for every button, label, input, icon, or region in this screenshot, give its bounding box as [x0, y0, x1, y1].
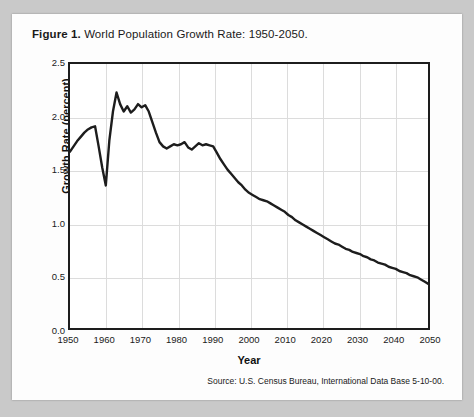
x-tick-label: 1950 [57, 334, 78, 345]
x-axis-label: Year [68, 354, 430, 366]
x-tick-label: 2010 [275, 334, 296, 345]
x-tick-label: 2020 [311, 334, 332, 345]
plot-area [68, 62, 430, 330]
y-tick-label: 0.5 [52, 271, 65, 282]
x-tick-label: 2040 [383, 334, 404, 345]
x-tick-label: 1980 [166, 334, 187, 345]
page-background: Figure 1. World Population Growth Rate: … [0, 0, 474, 417]
y-tick-label: 1.5 [52, 164, 65, 175]
y-tick-label: 1.0 [52, 217, 65, 228]
x-tick-label: 1970 [130, 334, 151, 345]
figure-caption: World Population Growth Rate: 1950-2050. [84, 28, 308, 40]
x-tick-label: 1960 [94, 334, 115, 345]
source-note: Source: U.S. Census Bureau, Internationa… [207, 376, 444, 386]
y-tick-label: 2.5 [52, 57, 65, 68]
x-tick-label: 2000 [238, 334, 259, 345]
x-axis-ticks: 1950196019701980199020002010202020302040… [68, 334, 430, 350]
growth-rate-line [70, 93, 428, 284]
series-layer [70, 64, 428, 328]
y-axis-ticks: 0.00.51.01.52.02.5 [32, 62, 65, 330]
y-tick-label: 2.0 [52, 110, 65, 121]
x-tick-label: 1990 [202, 334, 223, 345]
x-tick-label: 2030 [347, 334, 368, 345]
x-tick-label: 2050 [419, 334, 440, 345]
figure-title: Figure 1. World Population Growth Rate: … [32, 28, 308, 40]
figure-card: Figure 1. World Population Growth Rate: … [12, 14, 462, 400]
figure-label: Figure 1. [32, 28, 81, 40]
